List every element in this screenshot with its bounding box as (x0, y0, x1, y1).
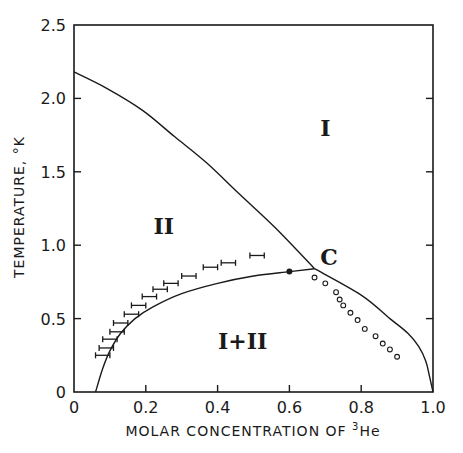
curve-line (74, 72, 315, 269)
open-data-point (348, 310, 353, 315)
y-tick-label: 0.5 (41, 310, 66, 329)
open-data-point (373, 334, 378, 339)
region-label-I-plus-II: I+II (218, 328, 267, 354)
y-tick-label: 1.5 (41, 163, 66, 182)
region-label-I: I (320, 115, 330, 141)
x-axis-title: MOLAR CONCENTRATION OF 3He (125, 421, 380, 439)
x-tick-label: 0.2 (133, 398, 158, 417)
open-data-point (323, 281, 328, 286)
x-tick-label: 0.4 (205, 398, 230, 417)
y-tick-label: 1.0 (41, 236, 66, 255)
open-data-point (380, 341, 385, 346)
x-tick-label: 0.8 (348, 398, 373, 417)
open-data-point (337, 297, 342, 302)
axis-ticks: 00.20.40.60.81.000.51.01.52.02.5 (41, 16, 446, 417)
open-data-point (388, 347, 393, 352)
y-tick-label: 2.5 (41, 16, 66, 35)
y-axis-title: TEMPERATURE, °K (11, 136, 27, 279)
region-labels: IIII+IIC (153, 115, 337, 354)
open-data-point (341, 303, 346, 308)
y-tick-label: 2.0 (41, 89, 66, 108)
open-data-point (355, 318, 360, 323)
critical-point-label: C (320, 244, 338, 270)
x-tick-label: 0.6 (277, 398, 302, 417)
region-label-II: II (153, 213, 174, 239)
filled-data-point (286, 269, 292, 275)
phase-diagram: 00.20.40.60.81.000.51.01.52.02.5 IIII+II… (0, 0, 463, 453)
open-data-point (395, 354, 400, 359)
x-tick-label: 0 (69, 398, 79, 417)
open-data-point (334, 290, 339, 295)
y-tick-label: 0 (56, 383, 66, 402)
x-tick-label: 1.0 (420, 398, 445, 417)
open-data-point (362, 326, 367, 331)
curve-line (315, 269, 433, 392)
open-data-point (312, 275, 317, 280)
curve-line (96, 269, 315, 392)
